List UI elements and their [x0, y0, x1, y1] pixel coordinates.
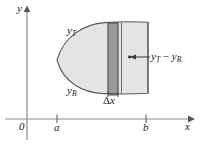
height-callout-label: yT − yB	[151, 51, 181, 63]
strip-fill-path	[108, 23, 118, 94]
top-curve-label: yT	[67, 25, 76, 37]
height-label-minus-operator: −	[160, 50, 172, 62]
bottom-curve-label: yB	[67, 85, 76, 97]
y-axis-arrowhead	[24, 6, 31, 13]
width-callout-label: Δx	[103, 95, 115, 106]
height-label-part2-subscript: B	[177, 55, 182, 64]
y-axis-label: y	[17, 3, 22, 14]
tick-label-a: a	[54, 122, 60, 133]
width-label-variable: x	[110, 94, 115, 106]
representative-rectangle	[108, 23, 118, 94]
x-axis-label: x	[185, 121, 190, 132]
top-curve-label-subscript: T	[72, 29, 76, 38]
tick-label-b: b	[143, 122, 149, 133]
figure-canvas: y x 0 a b yT yB yT − yB Δx	[0, 0, 200, 145]
origin-label: 0	[19, 121, 25, 132]
height-leader-dot	[128, 56, 131, 59]
bottom-curve-label-subscript: B	[72, 89, 77, 98]
figure-graphics	[0, 0, 200, 145]
